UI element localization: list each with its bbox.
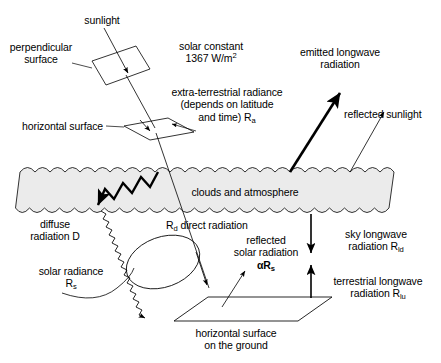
- sunlight-ray: [104, 28, 155, 131]
- label-clouds-and-atmosphere: clouds and atmosphere: [180, 186, 310, 198]
- reflected-sunlight-ray: [350, 112, 384, 172]
- label-diffuse-radiation: diffuse radiation D: [13, 218, 97, 243]
- direct-radiation-text: direct radiation: [178, 219, 248, 231]
- sky-longwave-line2: radiation Rld: [324, 240, 428, 254]
- label-terrestrial-longwave-radiation: terrestrial longwave radiation Rlu: [318, 275, 438, 302]
- label-emitted-longwave: emitted longwave radiation: [286, 46, 394, 71]
- label-direct-radiation: Rd direct radiation: [166, 219, 248, 233]
- solar-radiance-symbol: Rs: [22, 277, 120, 291]
- label-perpendicular-surface: perpendicular surface: [2, 41, 80, 66]
- label-reflected-sunlight: reflected sunlight: [344, 108, 422, 120]
- label-solar-constant: solar constant 1367 W/m2: [158, 40, 264, 67]
- horizontal-surface-top-leader: [106, 126, 124, 127]
- direct-radiation-subscript: d: [173, 224, 177, 233]
- label-ground-horizontal-surface: horizontal surface on the ground: [174, 327, 298, 352]
- reflected-solar-ray: [222, 271, 245, 307]
- ground-surface-shape: [174, 297, 332, 321]
- solar-constant-value-line: 1367 W/m2: [158, 52, 264, 66]
- radiation-budget-diagram: sunlight perpendicular surface solar con…: [0, 0, 441, 363]
- extra-terrestrial-line3: and time) Ra: [156, 111, 298, 125]
- reflected-solar-subscript: s: [271, 264, 275, 273]
- label-horizontal-surface-top: horizontal surface: [22, 120, 103, 132]
- label-sunlight: sunlight: [66, 14, 138, 26]
- perpendicular-surface-shape: [72, 46, 150, 85]
- sky-longwave-subscript: ld: [398, 245, 404, 254]
- terrestrial-longwave-line2: radiation Rlu: [318, 287, 438, 301]
- label-extra-terrestrial-radiance: extra-terrestrial radiance (depends on l…: [156, 86, 298, 125]
- label-solar-radiance: solar radiance Rs: [22, 265, 120, 292]
- solar-constant-exponent: 2: [232, 51, 236, 60]
- solar-radiance-subscript: s: [73, 282, 77, 291]
- terrestrial-longwave-subscript: lu: [400, 292, 406, 301]
- label-reflected-solar-radiation: reflected solar radiation αRs: [214, 234, 318, 273]
- reflected-solar-symbol: αRs: [214, 259, 318, 273]
- extra-terrestrial-subscript: a: [252, 116, 256, 125]
- label-sky-longwave-radiation: sky longwave radiation Rld: [324, 228, 428, 255]
